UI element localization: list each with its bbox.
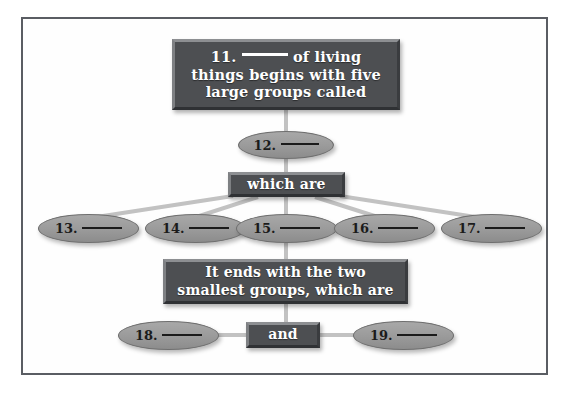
which-are-label: which are	[241, 176, 331, 193]
answer-oval-19[interactable]: 19.	[353, 321, 454, 350]
statement-box-ends: It ends with the two smallest groups, wh…	[163, 259, 408, 304]
oval-17-number: 17.	[458, 221, 481, 236]
answer-oval-13[interactable]: 13.	[38, 214, 139, 243]
answer-oval-12[interactable]: 12.	[238, 131, 334, 159]
statement-box-11: 11. of living things begins with five la…	[172, 39, 400, 110]
and-label: and	[262, 326, 304, 343]
oval-17-blank	[485, 227, 525, 229]
oval-15-number: 15.	[253, 221, 276, 236]
oval-16-number: 16.	[351, 221, 374, 236]
diagram-page: 11. of living things begins with five la…	[0, 0, 564, 394]
answer-oval-16[interactable]: 16.	[334, 214, 435, 243]
which-are-box: which are	[228, 172, 345, 197]
oval-13-blank	[82, 227, 122, 229]
oval-19-blank	[397, 334, 437, 336]
oval-18-blank	[162, 334, 202, 336]
answer-oval-15[interactable]: 15.	[236, 214, 337, 243]
ends-box-line2: smallest groups, which are	[177, 282, 393, 298]
oval-12-number: 12.	[253, 138, 276, 153]
ends-box-line1: It ends with the two	[205, 264, 366, 280]
answer-oval-18[interactable]: 18.	[118, 321, 219, 350]
oval-16-blank	[378, 227, 418, 229]
statement-11-line1-post: of living	[293, 48, 361, 65]
oval-13-number: 13.	[55, 221, 78, 236]
statement-11-blank	[242, 53, 288, 56]
oval-19-number: 19.	[370, 328, 393, 343]
statement-11-number: 11.	[211, 48, 237, 65]
statement-11-line3: large groups called	[206, 83, 367, 100]
answer-oval-17[interactable]: 17.	[441, 214, 542, 243]
oval-12-blank	[281, 143, 319, 145]
answer-oval-14[interactable]: 14.	[145, 214, 246, 243]
oval-15-blank	[280, 227, 320, 229]
statement-11-line2: things begins with five	[191, 66, 381, 83]
oval-18-number: 18.	[135, 328, 158, 343]
oval-14-number: 14.	[162, 221, 185, 236]
oval-14-blank	[189, 227, 229, 229]
and-box: and	[246, 322, 320, 348]
